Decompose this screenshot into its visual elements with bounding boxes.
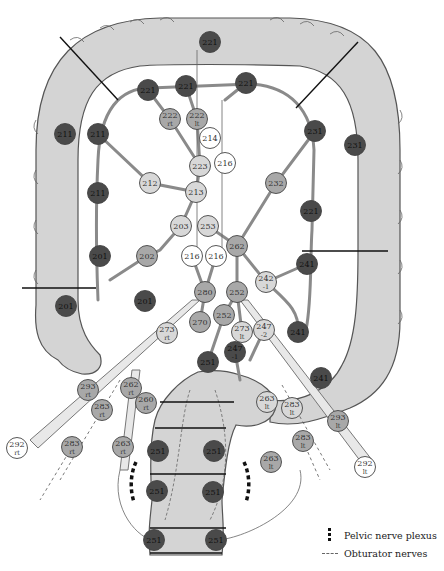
lymph-node-231: 231 [345, 135, 366, 156]
node-number: 247 [256, 322, 271, 331]
node-number: 283 [64, 439, 79, 448]
lymph-node-273-lt: 273lt [232, 322, 253, 343]
node-side: lt [195, 120, 200, 128]
thin-dashed-line-icon [322, 545, 342, 561]
node-number: 203 [173, 222, 188, 231]
node-side: rt [164, 334, 170, 342]
node-number: 214 [202, 134, 217, 143]
lymph-node-247-1: 247-1 [225, 342, 246, 363]
node-number: 242 [258, 274, 273, 283]
lymph-node-247-2: 247-2 [254, 320, 275, 341]
node-number: 211 [57, 130, 72, 139]
node-number: 241 [290, 328, 305, 337]
legend-label: Pelvic nerve plexus [344, 530, 437, 541]
node-number: 241 [299, 260, 314, 269]
node-number: 251 [146, 536, 161, 545]
lymph-node-263-rt: 263rt [113, 437, 134, 458]
node-side: lt [363, 468, 368, 476]
node-side: lt [290, 409, 295, 417]
node-number: 251 [150, 447, 165, 456]
lymph-node-251: 251 [198, 352, 219, 373]
node-side: rt [99, 411, 105, 419]
lymph-node-211: 211 [55, 124, 76, 145]
node-number: 273 [159, 325, 174, 334]
node-number: 251 [205, 488, 220, 497]
node-number: 221 [238, 79, 253, 88]
lymph-node-263-lt: 263lt [261, 452, 282, 473]
node-side: -1 [232, 353, 238, 361]
node-number: 252 [216, 311, 231, 320]
lymph-node-221: 221 [176, 76, 197, 97]
node-number: 262 [229, 242, 244, 251]
legend-item-obturator-nerves: Obturator nerves [322, 544, 437, 562]
node-number: 252 [229, 288, 244, 297]
node-number: 263 [263, 454, 278, 463]
node-side: -1 [263, 283, 269, 291]
lymph-node-262: 262 [227, 236, 248, 257]
lymph-node-221: 221 [138, 80, 159, 101]
node-number: 212 [142, 179, 157, 188]
lymph-node-252: 252 [214, 305, 235, 326]
thick-dashed-line-icon [322, 527, 342, 543]
node-number: 201 [58, 302, 73, 311]
lymph-node-211: 211 [88, 124, 109, 145]
lymph-node-292-rt: 292rt [7, 438, 28, 459]
node-number: 292 [357, 459, 372, 468]
lymph-node-251: 251 [203, 482, 224, 503]
node-number: 251 [200, 358, 215, 367]
lymph-node-283-lt: 283lt [282, 398, 303, 419]
node-side: lt [265, 403, 270, 411]
node-number: 213 [188, 188, 203, 197]
node-side: rt [143, 404, 149, 412]
node-number: 221 [140, 86, 155, 95]
node-number: 221 [178, 82, 193, 91]
node-number: 216 [184, 252, 199, 261]
lymph-node-201: 201 [135, 291, 156, 312]
node-number: 273 [234, 324, 249, 333]
lymph-node-222-lt: 222lt [187, 109, 208, 130]
node-number: 211 [90, 130, 105, 139]
lymph-node-293-lt: 293lt [328, 411, 349, 432]
lymph-node-241: 241 [311, 368, 332, 389]
node-number: 222 [189, 111, 204, 120]
node-number: 202 [139, 252, 154, 261]
node-side: rt [167, 120, 173, 128]
node-number: 251 [206, 447, 221, 456]
node-side: rt [14, 449, 20, 457]
lymph-node-201: 201 [90, 246, 111, 267]
lymph-node-241: 241 [288, 322, 309, 343]
node-side: lt [240, 333, 245, 341]
node-number: 283 [94, 402, 109, 411]
node-number: 251 [208, 536, 223, 545]
lymph-node-216: 216 [206, 246, 227, 267]
lymph-node-231: 231 [305, 121, 326, 142]
node-number: 293 [80, 382, 95, 391]
node-side: lt [301, 442, 306, 450]
lymph-node-260-rt: 260rt [136, 393, 157, 414]
node-number: 216 [208, 252, 223, 261]
lymph-node-283-rt: 283rt [92, 400, 113, 421]
legend: Pelvic nerve plexus Obturator nerves [322, 526, 437, 562]
node-number: 231 [307, 127, 322, 136]
lymph-node-280: 280 [195, 282, 216, 303]
lymph-node-251: 251 [204, 441, 225, 462]
node-number: 201 [92, 252, 107, 261]
lymph-node-223: 223 [190, 156, 211, 177]
lymph-node-216: 216 [215, 153, 236, 174]
lymph-node-211: 211 [88, 183, 109, 204]
node-number: 222 [162, 111, 177, 120]
node-number: 211 [90, 189, 105, 198]
lymph-node-221: 221 [200, 32, 221, 53]
node-number: 263 [115, 439, 130, 448]
lymph-node-222-rt: 222rt [160, 109, 181, 130]
node-number: 241 [313, 374, 328, 383]
node-number: 293 [330, 413, 345, 422]
node-number: 231 [347, 141, 362, 150]
node-side: rt [85, 391, 91, 399]
node-side: lt [269, 463, 274, 471]
node-number: 232 [268, 179, 283, 188]
node-number: 201 [137, 297, 152, 306]
lymph-node-241: 241 [297, 254, 318, 275]
lymph-node-214: 214 [200, 128, 221, 149]
lymph-node-273-rt: 273rt [157, 323, 178, 344]
